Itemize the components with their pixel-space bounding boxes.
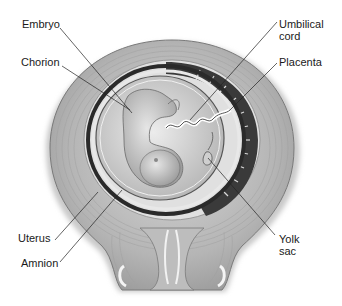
label-umbilical-cord: Umbilical cord bbox=[279, 18, 324, 42]
label-embryo: Embryo bbox=[22, 18, 60, 30]
label-placenta: Placenta bbox=[279, 56, 322, 68]
label-amnion: Amnion bbox=[21, 257, 58, 269]
label-chorion: Chorion bbox=[21, 56, 60, 68]
label-uterus: Uterus bbox=[18, 232, 50, 244]
label-yolk-sac: Yolk sac bbox=[279, 233, 299, 257]
